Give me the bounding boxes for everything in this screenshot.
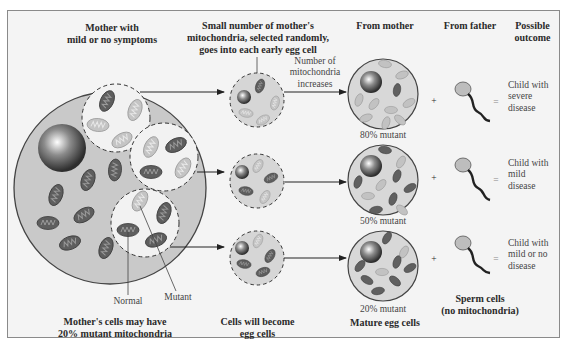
precursor-cell-1 — [230, 73, 284, 127]
footer-egg-precursors: Cells will become egg cells — [210, 316, 305, 340]
header-outcome: Possible outcome — [505, 20, 560, 44]
header-from-father: From father — [440, 20, 500, 32]
plus-row-3: + — [428, 254, 440, 265]
header-mother: Mother with mild or no symptoms — [52, 22, 172, 46]
equals-row-1: = — [491, 97, 501, 108]
header-from-mother: From mother — [345, 20, 425, 32]
footer-sperm: Sperm cells (no mitochondria) — [435, 293, 525, 317]
footer-mother-cells: Mother's cells may have 20% mutant mitoc… — [40, 316, 190, 340]
footer-mature-eggs: Mature egg cells — [340, 317, 430, 329]
annotation-increase: Number of mitochondria increases — [281, 56, 349, 90]
outcome-row-2: Child with mild disease — [508, 158, 560, 192]
equals-row-2: = — [491, 175, 501, 186]
pct-row-2: 50% mutant — [348, 216, 418, 227]
sperm-3 — [455, 236, 490, 273]
outcome-row-1: Child with severe disease — [508, 80, 560, 114]
mature-egg-50 — [348, 145, 418, 217]
label-normal: Normal — [108, 296, 148, 307]
header-selection: Small number of mother's mitochondria, s… — [178, 20, 338, 56]
mature-egg-80 — [348, 59, 418, 130]
sperm-2 — [455, 158, 490, 200]
sperm-1 — [455, 82, 490, 121]
precursor-cell-2 — [230, 154, 284, 208]
label-mutant: Mutant — [158, 292, 198, 303]
equals-row-3: = — [491, 254, 501, 265]
mature-egg-20 — [348, 231, 418, 301]
pct-row-1: 80% mutant — [348, 130, 418, 141]
mother-cell — [14, 84, 206, 295]
plus-row-2: + — [428, 173, 440, 184]
precursor-cell-3 — [230, 231, 284, 285]
pct-row-3: 20% mutant — [348, 304, 418, 315]
outcome-row-3: Child with mild or no disease — [508, 238, 560, 272]
plus-row-1: + — [428, 96, 440, 107]
